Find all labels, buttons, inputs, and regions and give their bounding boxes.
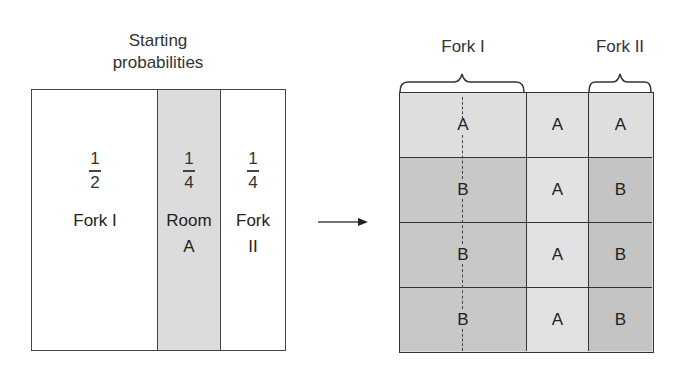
brace-fork-2-icon (587, 72, 655, 94)
grid-cell-r4-c2: A (527, 288, 589, 351)
grid-cell-r4-c1: B (400, 288, 527, 351)
grid-cell-r1-c1: A (400, 93, 527, 158)
numerator: 1 (157, 150, 221, 168)
title-line-1: Starting (58, 30, 258, 52)
grid-cell-r1-c3: A (589, 93, 652, 158)
fraction-bar (247, 170, 259, 172)
fraction-bar (89, 170, 101, 172)
label-line-1: Room (157, 210, 221, 232)
denominator: 4 (221, 174, 285, 192)
fork-1-split-dashed-line (462, 329, 463, 351)
grid-cell-r2-c1: B (400, 158, 527, 223)
fork-1-split-dashed-line (462, 264, 463, 309)
fraction-fork-2: 1 4 (221, 150, 285, 192)
starting-probabilities-box: 1 2 1 4 1 4 Fork I Room A Fork II (31, 89, 286, 351)
label-line-2: II (221, 236, 285, 258)
numerator: 1 (32, 150, 158, 168)
brace-label-fork-1: Fork I (400, 36, 526, 58)
fraction-fork-1: 1 2 (32, 150, 158, 192)
starting-probabilities-title: Starting probabilities (58, 30, 258, 74)
label-fork-2: Fork II (221, 210, 285, 258)
grid-cell-r2-c3: B (589, 158, 652, 223)
right-arrow-icon (316, 216, 372, 228)
label-line-1: Fork I (32, 210, 158, 232)
grid-cell-r1-c2: A (527, 93, 589, 158)
label-room-a: Room A (157, 210, 221, 258)
fraction-bar (183, 170, 195, 172)
brace-label-fork-2: Fork II (585, 36, 655, 58)
denominator: 2 (32, 174, 158, 192)
fraction-room-a: 1 4 (157, 150, 221, 192)
fork-1-split-dashed-line (462, 135, 463, 179)
label-fork-1: Fork I (32, 210, 158, 232)
denominator: 4 (157, 174, 221, 192)
brace-fork-1-icon (398, 72, 528, 94)
outcome-grid: A A A B A B B A B B A B (399, 92, 654, 353)
grid-cell-r3-c1: B (400, 223, 527, 288)
label-line-2: A (157, 236, 221, 258)
numerator: 1 (221, 150, 285, 168)
label-line-1: Fork (221, 210, 285, 232)
fork-1-split-dashed-line (462, 199, 463, 244)
grid-cell-r3-c3: B (589, 223, 652, 288)
grid-cell-r3-c2: A (527, 223, 589, 288)
title-line-2: probabilities (58, 52, 258, 74)
fork-1-split-dashed-line (462, 97, 463, 119)
grid-cell-r4-c3: B (589, 288, 652, 351)
grid-cell-r2-c2: A (527, 158, 589, 223)
